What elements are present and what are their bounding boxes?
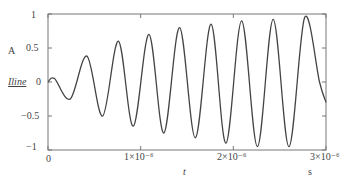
x-tick-2e-6: 2×10⁻⁶	[217, 151, 246, 162]
y-tick-neg1: −1	[26, 141, 37, 152]
iline-curve	[48, 16, 326, 146]
y-tick-0: 0	[36, 76, 41, 87]
x-tick-1e-6: 1×10⁻⁶	[124, 151, 153, 162]
x-tick-0: 0	[46, 153, 51, 164]
x-unit-label: s	[308, 166, 312, 177]
y-tick-neg0.5: −0.5	[21, 110, 39, 121]
y-unit-label: A	[8, 45, 15, 56]
y-tick-0.5: 0.5	[26, 42, 39, 53]
plot-area	[0, 0, 356, 182]
x-tick-3e-6: 3×10⁻⁶	[310, 151, 339, 162]
x-axis-label: t	[183, 166, 186, 177]
y-tick-1: 1	[31, 9, 36, 20]
y-axis-label: Iline	[8, 76, 26, 87]
